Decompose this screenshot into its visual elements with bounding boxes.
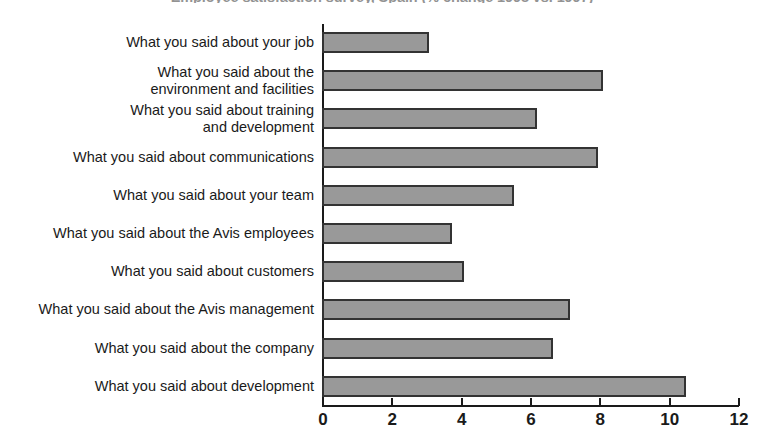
- bar-row: What you said about the company: [322, 338, 738, 359]
- x-axis-tick: [530, 398, 532, 406]
- bar: [322, 32, 429, 53]
- bar-row: What you said about your job: [322, 32, 738, 53]
- bar: [322, 147, 598, 168]
- category-label: What you said about the Avis employees: [0, 225, 314, 242]
- x-axis-tick-label: 12: [719, 410, 759, 430]
- category-label: What you said about the Avis management: [0, 301, 314, 318]
- bar-row: What you said about customers: [322, 261, 738, 282]
- bar: [322, 70, 603, 91]
- x-axis-tick: [738, 398, 740, 406]
- x-axis-tick: [599, 398, 601, 406]
- x-axis-tick-label: 4: [442, 410, 482, 430]
- x-axis-tick-label: 8: [580, 410, 620, 430]
- bar: [322, 299, 570, 320]
- bar: [322, 376, 686, 397]
- x-axis-tick: [391, 398, 393, 406]
- category-label: What you said about training and develop…: [0, 102, 314, 135]
- category-label: What you said about the company: [0, 340, 314, 357]
- x-axis-tick: [461, 398, 463, 406]
- bar-row: What you said about the environment and …: [322, 70, 738, 91]
- category-label: What you said about customers: [0, 263, 314, 280]
- x-axis-tick-label: 2: [372, 410, 412, 430]
- category-label: What you said about communications: [0, 149, 314, 166]
- bar: [322, 108, 537, 129]
- x-axis-tick: [669, 398, 671, 406]
- x-axis-tick-label: 0: [303, 410, 343, 430]
- x-axis-tick: [322, 398, 324, 406]
- bar-row: What you said about your team: [322, 185, 738, 206]
- bar-row: What you said about communications: [322, 147, 738, 168]
- category-label: What you said about the environment and …: [0, 64, 314, 97]
- bar: [322, 338, 553, 359]
- bar-row: What you said about the Avis management: [322, 299, 738, 320]
- category-label: What you said about your team: [0, 187, 314, 204]
- bar-row: What you said about training and develop…: [322, 108, 738, 129]
- x-axis-tick-label: 10: [650, 410, 690, 430]
- bar: [322, 261, 464, 282]
- bar-chart: Employee satisfaction survey, Spain (% c…: [0, 0, 764, 438]
- x-axis-tick-label: 6: [511, 410, 551, 430]
- bar-row: What you said about the Avis employees: [322, 223, 738, 244]
- plot-area: What you said about your jobWhat you sai…: [322, 24, 738, 406]
- chart-title: Employee satisfaction survey, Spain (% c…: [0, 0, 764, 3]
- bar: [322, 223, 452, 244]
- category-label: What you said about development: [0, 378, 314, 395]
- category-label: What you said about your job: [0, 34, 314, 51]
- bar-row: What you said about development: [322, 376, 738, 397]
- bar: [322, 185, 514, 206]
